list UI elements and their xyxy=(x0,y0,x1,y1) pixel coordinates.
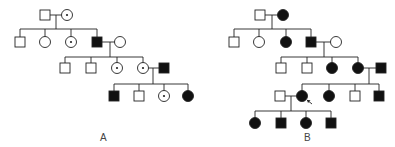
male-affected-symbol xyxy=(109,91,119,101)
male-unaffected-symbol xyxy=(15,37,25,47)
male-unaffected-symbol xyxy=(275,91,285,101)
female-affected-symbol xyxy=(250,118,261,129)
female-affected-symbol xyxy=(327,63,338,74)
female-affected-symbol xyxy=(278,10,289,21)
female-affected-symbol xyxy=(324,91,335,102)
pedigree-figure: A B xyxy=(0,0,395,147)
female-unaffected-symbol xyxy=(331,37,342,48)
male-affected-symbol xyxy=(92,37,102,47)
male-unaffected-symbol xyxy=(40,10,50,20)
male-affected-symbol xyxy=(326,118,336,128)
male-unaffected-symbol xyxy=(134,91,144,101)
female-affected-symbol xyxy=(301,118,312,129)
female-unaffected-symbol xyxy=(40,37,51,48)
female-affected-symbol xyxy=(353,63,364,74)
pedigree-drawing xyxy=(0,0,395,147)
male-unaffected-symbol xyxy=(350,91,360,101)
male-affected-symbol xyxy=(376,63,386,73)
male-unaffected-symbol xyxy=(86,63,96,73)
panel-label-a: A xyxy=(100,132,107,143)
male-affected-symbol xyxy=(276,118,286,128)
carrier-dot-icon xyxy=(66,14,68,16)
female-affected-symbol xyxy=(281,37,292,48)
male-unaffected-symbol xyxy=(276,63,286,73)
male-affected-symbol xyxy=(374,91,384,101)
male-unaffected-symbol xyxy=(229,37,239,47)
male-unaffected-symbol xyxy=(60,63,70,73)
panel-label-b: B xyxy=(304,132,311,143)
male-affected-symbol xyxy=(306,37,316,47)
carrier-dot-icon xyxy=(163,95,165,97)
male-unaffected-symbol xyxy=(255,10,265,20)
male-affected-symbol xyxy=(159,63,169,73)
male-unaffected-symbol xyxy=(302,63,312,73)
carrier-dot-icon xyxy=(116,67,118,69)
female-affected-symbol xyxy=(183,91,194,102)
female-affected-symbol xyxy=(297,91,308,102)
carrier-dot-icon xyxy=(142,67,144,69)
female-unaffected-symbol xyxy=(115,37,126,48)
female-unaffected-symbol xyxy=(254,37,265,48)
carrier-dot-icon xyxy=(70,41,72,43)
